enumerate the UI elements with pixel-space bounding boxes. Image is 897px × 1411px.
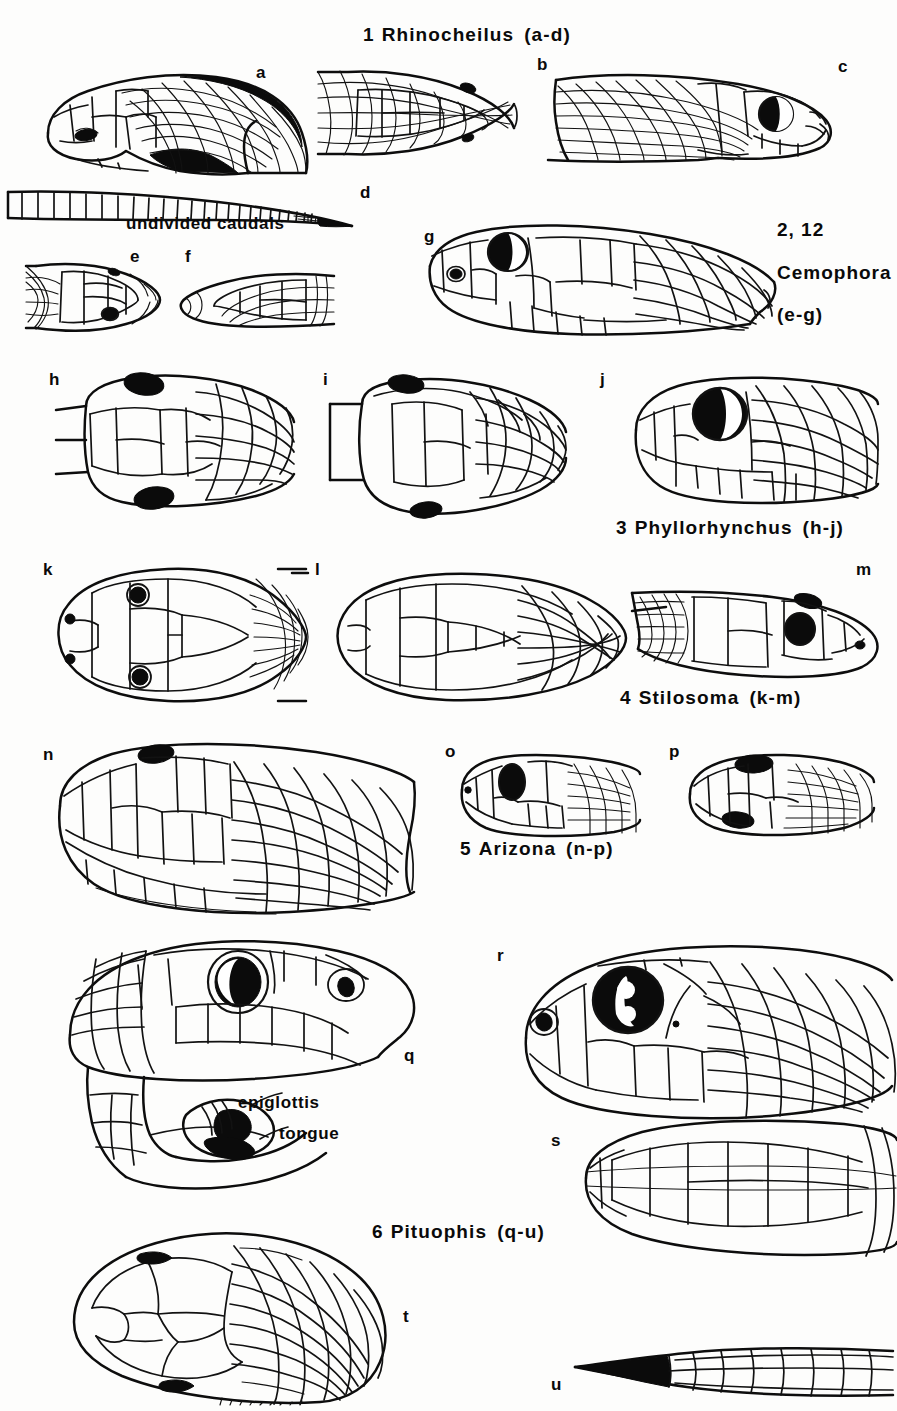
figure-o-arizona-lateral [450, 748, 640, 838]
taxon-label-rhinocheilus: 1Rhinocheilus(a-d) [363, 24, 571, 46]
taxon-name: Phyllorhynchus [635, 517, 793, 538]
panel-letter-k: k [43, 560, 52, 580]
figure-f-cemophora-ventral [176, 266, 336, 331]
panel-letter-r: r [497, 946, 504, 966]
panel-letter-l: l [315, 560, 320, 580]
annotation-epiglottis: epiglottis [238, 1093, 320, 1113]
figure-m-stilosoma-lateral [632, 575, 882, 680]
figure-l-stilosoma-ventral [326, 570, 626, 705]
panel-letter-f: f [185, 247, 191, 267]
taxon-label-arizona: 5Arizona(n-p) [460, 838, 614, 860]
figure-g-cemophora-lateral [420, 212, 780, 337]
annotation-tongue: tongue [279, 1124, 339, 1144]
figure-n-arizona-lateral [36, 738, 416, 918]
panel-letter-b: b [537, 55, 547, 75]
panel-letter-q: q [404, 1046, 414, 1066]
figure-t-pituophis-dorsal [52, 1230, 392, 1405]
cemophora-name-label: Cemophora [777, 262, 892, 284]
taxon-label-phyllorhynchus: 3Phyllorhynchus(h-j) [616, 517, 844, 539]
panel-letter-g: g [424, 227, 434, 247]
figure-p-arizona-dorsal [676, 748, 876, 840]
figure-a-rhinocheilus-lateral [30, 55, 330, 180]
taxon-name: Stilosoma [639, 687, 740, 708]
annotation-undivided-caudals: undivided caudals [126, 214, 285, 234]
figure-h-phyllorhynchus-dorsal [56, 370, 296, 510]
taxon-number: 1 [363, 24, 375, 45]
figure-r-pituophis-lateral [508, 938, 893, 1123]
figure-s-pituophis-ventral [572, 1118, 897, 1263]
cemophora-number-label: 2, 12 [777, 219, 824, 241]
figure-k-stilosoma-dorsal [40, 565, 310, 705]
taxon-range: (h-j) [803, 517, 844, 538]
taxon-label-pituophis: 6Pituophis(q-u) [372, 1221, 545, 1243]
taxon-name: Pituophis [391, 1221, 487, 1242]
figure-j-phyllorhynchus-lateral [610, 370, 880, 505]
figure-i-phyllorhynchus-ventral [330, 370, 570, 518]
taxon-name: Rhinocheilus [382, 24, 515, 45]
taxon-label-stilosoma: 4Stilosoma(k-m) [620, 687, 801, 709]
panel-letter-h: h [49, 370, 59, 390]
panel-letter-d: d [360, 183, 370, 203]
figure-u-pituophis-tail-tip [575, 1345, 895, 1400]
figure-b-rhinocheilus-dorsal [318, 58, 533, 168]
panel-letter-a: a [256, 63, 265, 83]
taxon-range: (a-d) [524, 24, 571, 45]
panel-letter-o: o [445, 742, 455, 762]
panel-letter-n: n [43, 745, 53, 765]
taxon-range: (k-m) [749, 687, 801, 708]
taxon-number: 4 [620, 687, 632, 708]
taxon-range: (n-p) [566, 838, 614, 859]
panel-letter-c: c [838, 57, 847, 77]
panel-letter-t: t [403, 1307, 409, 1327]
panel-letter-m: m [856, 560, 871, 580]
figure-q-pituophis-open-mouth [26, 925, 426, 1190]
taxon-number: 5 [460, 838, 472, 859]
illustration-plate: 1Rhinocheilus(a-d) [0, 0, 897, 1411]
panel-letter-i: i [323, 370, 328, 390]
panel-letter-u: u [551, 1375, 561, 1395]
panel-letter-s: s [551, 1131, 560, 1151]
cemophora-range-label: (e-g) [777, 304, 823, 326]
panel-letter-p: p [669, 742, 679, 762]
taxon-name: Arizona [479, 838, 556, 859]
taxon-number: 3 [616, 517, 628, 538]
figure-c-rhinocheilus-lateral [548, 60, 838, 170]
panel-letter-e: e [130, 247, 139, 267]
panel-letter-j: j [600, 370, 605, 390]
figure-e-cemophora-dorsal [26, 258, 166, 333]
taxon-range: (q-u) [497, 1221, 545, 1242]
